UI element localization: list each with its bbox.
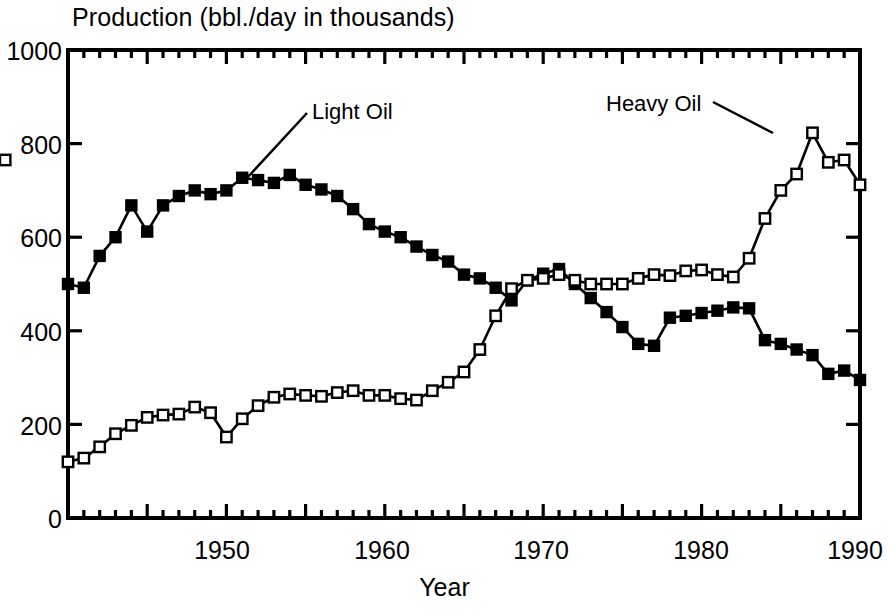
marker-0-1950 [221,185,231,195]
marker-1-1948 [190,402,200,412]
marker-0-1945 [142,226,152,236]
marker-1-1942 [94,442,104,452]
marker-1-1946 [158,410,168,420]
marker-1-1970 [538,273,548,283]
marker-1-1981 [712,269,722,279]
marker-0-1949 [205,189,215,199]
marker-0-1987 [807,350,817,360]
marker-0-1946 [158,200,168,210]
marker-1-1964 [443,377,453,387]
marker-0-1957 [332,191,342,201]
marker-1-1954 [285,389,295,399]
marker-0-1985 [776,339,786,349]
marker-1-1975 [617,279,627,289]
series-heavy-oil [0,128,865,467]
marker-1-1962 [411,395,421,405]
marker-1-1958 [348,386,358,396]
marker-0-1978 [665,313,675,323]
marker-1-1966 [475,344,485,354]
marker-1-1963 [427,386,437,396]
marker-0-1981 [712,305,722,315]
marker-0-1966 [475,273,485,283]
marker-0-1979 [681,311,691,321]
marker-0-1986 [791,344,801,354]
marker-1-1988 [823,157,833,167]
leader-line-light-oil [247,113,307,178]
marker-0-1980 [696,308,706,318]
marker-0-1973 [586,293,596,303]
axes [68,50,860,518]
marker-0-1944 [126,200,136,210]
marker-0-1983 [744,303,754,313]
marker-1-1960 [380,390,390,400]
marker-1-1945 [142,412,152,422]
marker-1-1967 [490,311,500,321]
marker-1-1961 [395,393,405,403]
marker-1-1982 [728,272,738,282]
plot-area [0,0,889,612]
marker-0-1951 [237,173,247,183]
marker-1-1956 [316,391,326,401]
marker-0-1988 [823,369,833,379]
marker-0-1943 [110,232,120,242]
marker-1-1977 [649,269,659,279]
marker-1-1989 [839,155,849,165]
marker-1-1951 [237,414,247,424]
marker-1-1969 [522,275,532,285]
marker-1-1978 [665,270,675,280]
marker-0-1989 [839,365,849,375]
marker-0-1940 [63,279,73,289]
marker-1-1959 [364,390,374,400]
marker-1-1986 [791,169,801,179]
leader-line-heavy-oil [713,102,773,133]
marker-1-1965 [459,367,469,377]
marker-0-1953 [269,178,279,188]
marker-0-1962 [411,241,421,251]
data-series [0,128,865,467]
marker-1-1955 [300,390,310,400]
marker-1-1940 [63,457,73,467]
marker-1-1990 [855,180,865,190]
tick-marks [68,50,860,518]
marker-0-1963 [427,250,437,260]
marker-1-1953 [269,392,279,402]
marker-1-1968 [506,283,516,293]
marker-0-1942 [94,251,104,261]
marker-1-1957 [332,387,342,397]
marker-1-1972 [570,275,580,285]
marker-1-1943 [110,429,120,439]
marker-1-1974 [601,279,611,289]
marker-0-1955 [300,180,310,190]
marker-0-1984 [760,335,770,345]
marker-0-1958 [348,204,358,214]
marker-0-1967 [490,283,500,293]
oil-production-chart: Production (bbl./day in thousands) 1000 … [0,0,889,612]
plot-frame [68,50,860,518]
marker-1-1987 [807,128,817,138]
marker-1-1952 [253,400,263,410]
marker-0-1941 [79,283,89,293]
marker-0-1964 [443,256,453,266]
marker-0-1959 [364,219,374,229]
marker-1-1979 [681,266,691,276]
marker-1-1971 [554,269,564,279]
marker-0-1947 [174,191,184,201]
annotation-leader-lines [247,102,773,178]
marker-1-1983 [744,253,754,263]
marker-1-1980 [696,265,706,275]
marker-1-1947 [174,409,184,419]
marker-0-1956 [316,184,326,194]
marker-1-1976 [633,273,643,283]
marker-0-1977 [649,341,659,351]
series-line-1 [68,133,860,462]
marker-1-1985 [776,185,786,195]
marker-0-1960 [380,226,390,236]
marker-0-1965 [459,269,469,279]
series-light-oil [63,170,865,385]
marker-0-1975 [617,322,627,332]
marker-1-1941 [79,453,89,463]
marker-1-1950 [221,432,231,442]
marker-1-1973 [586,279,596,289]
marker-0-1954 [285,170,295,180]
marker-0-1976 [633,339,643,349]
